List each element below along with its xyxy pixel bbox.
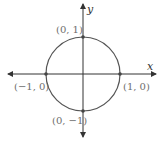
point-bottom [81,109,85,113]
point-right [118,72,122,76]
label-right: (1, 0) [123,81,150,92]
label-top: (0, 1) [56,24,83,35]
point-top [81,35,85,39]
label-left: (−1, 0) [14,81,49,92]
unit-circle-diagram: x y (0, 1) (−1, 0) (1, 0) (0, −1) [0,0,161,141]
label-bottom: (0, −1) [52,115,87,126]
y-axis-label: y [86,3,94,16]
x-axis-label: x [147,60,154,73]
point-left [44,72,48,76]
